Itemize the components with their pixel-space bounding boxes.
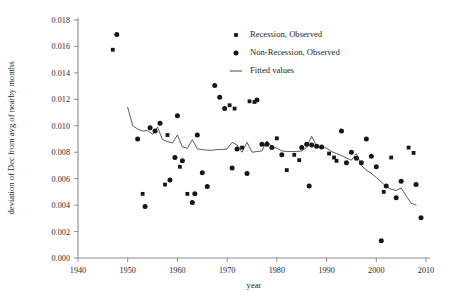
- data-point-non-recession: [205, 184, 210, 189]
- data-point-non-recession: [148, 125, 153, 130]
- y-tick-label: 0.010: [52, 122, 70, 131]
- data-point-non-recession: [379, 238, 384, 243]
- data-point-recession: [327, 152, 331, 156]
- data-point-non-recession: [143, 204, 148, 209]
- x-tick-label: 1980: [269, 266, 285, 275]
- data-point-recession: [275, 136, 279, 140]
- data-point-non-recession: [414, 182, 419, 187]
- y-tick-label: 0.002: [52, 228, 70, 237]
- data-point-non-recession: [264, 142, 269, 147]
- data-point-recession: [389, 156, 393, 160]
- data-point-non-recession: [304, 142, 309, 147]
- data-point-non-recession: [269, 145, 274, 150]
- data-point-non-recession: [175, 113, 180, 118]
- data-point-non-recession: [180, 158, 185, 163]
- x-tick-label: 1940: [70, 266, 86, 275]
- data-point-recession: [407, 146, 411, 150]
- data-point-non-recession: [245, 171, 250, 176]
- y-tick-label: 0.008: [52, 148, 70, 157]
- data-point-non-recession: [394, 195, 399, 200]
- data-point-non-recession: [279, 152, 284, 157]
- legend-label: Non-Recession, Observed: [250, 47, 340, 57]
- data-point-non-recession: [190, 200, 195, 205]
- y-tick-label: 0.014: [52, 69, 70, 78]
- data-point-recession: [163, 183, 167, 187]
- y-tick-label: 0.018: [52, 16, 70, 25]
- x-tick-label: 2010: [418, 266, 434, 275]
- data-point-non-recession: [369, 154, 374, 159]
- data-point-non-recession: [222, 106, 227, 111]
- data-point-recession: [233, 107, 237, 111]
- data-point-non-recession: [309, 142, 314, 147]
- data-point-non-recession: [172, 155, 177, 160]
- y-axis-title: deviation of Dec from avg of nearby mont…: [6, 61, 16, 215]
- data-point-non-recession: [307, 183, 312, 188]
- data-point-non-recession: [114, 32, 119, 37]
- non-recession-points: [114, 32, 423, 243]
- data-point-non-recession: [319, 144, 324, 149]
- legend-label: Recession, Observed: [250, 29, 323, 39]
- data-point-non-recession: [153, 129, 158, 134]
- data-point-recession: [412, 151, 416, 155]
- data-point-recession: [141, 192, 145, 196]
- data-point-recession: [240, 146, 244, 150]
- y-tick-label: 0.012: [52, 95, 70, 104]
- chart-legend: Recession, ObservedNon-Recession, Observ…: [230, 29, 340, 75]
- data-point-non-recession: [212, 83, 217, 88]
- data-point-recession: [382, 190, 386, 194]
- x-tick-label: 2000: [368, 266, 384, 275]
- data-point-non-recession: [167, 177, 172, 182]
- y-tick-label: 0.004: [52, 201, 70, 210]
- data-point-recession: [253, 100, 257, 104]
- data-point-non-recession: [349, 150, 354, 155]
- x-tick-label: 1960: [169, 266, 185, 275]
- data-point-recession: [285, 168, 289, 172]
- data-point-non-recession: [192, 191, 197, 196]
- data-point-non-recession: [314, 144, 319, 149]
- data-point-recession: [178, 165, 182, 169]
- data-point-non-recession: [235, 146, 240, 151]
- data-point-non-recession: [354, 156, 359, 161]
- x-axis-title: year: [247, 280, 262, 290]
- data-point-non-recession: [419, 215, 424, 220]
- data-point-non-recession: [384, 183, 389, 188]
- x-tick-label: 1950: [120, 266, 136, 275]
- data-point-non-recession: [399, 179, 404, 184]
- data-point-non-recession: [158, 121, 163, 126]
- data-point-recession: [332, 156, 336, 160]
- data-point-non-recession: [230, 166, 235, 171]
- data-point-non-recession: [135, 137, 140, 142]
- data-point-recession: [228, 103, 232, 107]
- x-tick-label: 1990: [318, 266, 334, 275]
- legend-marker-circle-icon: [234, 51, 239, 56]
- data-point-non-recession: [299, 145, 304, 150]
- y-tick-label: 0.000: [52, 254, 70, 263]
- data-point-recession: [111, 48, 115, 52]
- x-axis-ticks: 19401950196019701980199020002010: [70, 258, 434, 275]
- data-point-non-recession: [217, 95, 222, 100]
- data-point-recession: [185, 192, 189, 196]
- data-point-recession: [297, 158, 301, 162]
- data-point-recession: [166, 133, 170, 137]
- x-tick-label: 1970: [219, 266, 235, 275]
- chart-figure: 0.0000.0020.0040.0060.0080.0100.0120.014…: [0, 0, 452, 302]
- data-point-non-recession: [200, 170, 205, 175]
- legend-marker-square-icon: [234, 33, 238, 37]
- legend-label: Fitted values: [250, 65, 295, 75]
- y-tick-label: 0.016: [52, 42, 70, 51]
- scatter-plot: 0.0000.0020.0040.0060.0080.0100.0120.014…: [0, 0, 452, 302]
- data-point-non-recession: [339, 129, 344, 134]
- data-point-non-recession: [195, 133, 200, 138]
- data-point-non-recession: [359, 160, 364, 165]
- data-point-non-recession: [344, 160, 349, 165]
- data-point-non-recession: [259, 142, 264, 147]
- data-point-recession: [248, 99, 252, 103]
- y-tick-label: 0.006: [52, 175, 70, 184]
- data-point-recession: [335, 159, 339, 163]
- y-axis-ticks: 0.0000.0020.0040.0060.0080.0100.0120.014…: [52, 16, 78, 263]
- data-point-non-recession: [364, 137, 369, 142]
- data-point-non-recession: [374, 164, 379, 169]
- data-point-recession: [292, 153, 296, 157]
